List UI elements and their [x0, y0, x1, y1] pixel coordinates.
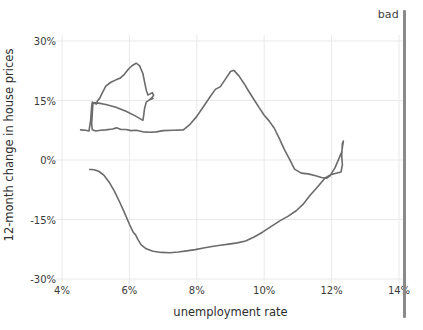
bad-annotation-label: bad — [378, 8, 399, 21]
x-tick-label: 10% — [253, 285, 275, 296]
chart-figure: 30%15%0%-15%-30% 4%6%8%10%12%14% unemplo… — [0, 0, 423, 330]
x-axis-title: unemployment rate — [62, 305, 399, 319]
y-tick-label: -15% — [20, 214, 56, 225]
data-series-group — [81, 63, 344, 253]
data-line-0 — [81, 63, 344, 253]
x-tick-label: 6% — [121, 285, 137, 296]
x-tick-label: 12% — [320, 285, 342, 296]
x-axis-tick-labels: 4%6%8%10%12%14% — [0, 285, 423, 301]
y-tick-label: 0% — [20, 155, 56, 166]
y-axis-tick-labels: 30%15%0%-15%-30% — [18, 0, 56, 330]
x-tick-label: 4% — [54, 285, 70, 296]
bad-annotation-bar — [403, 10, 406, 318]
x-tick-label: 14% — [388, 285, 410, 296]
y-tick-label: -30% — [20, 274, 56, 285]
y-tick-label: 15% — [20, 95, 56, 106]
x-tick-label: 8% — [189, 285, 205, 296]
y-axis-title-wrap: 12-month change in house prices — [0, 0, 22, 290]
y-axis-title: 12-month change in house prices — [2, 20, 16, 270]
y-tick-label: 30% — [20, 36, 56, 47]
plot-area — [0, 0, 423, 330]
